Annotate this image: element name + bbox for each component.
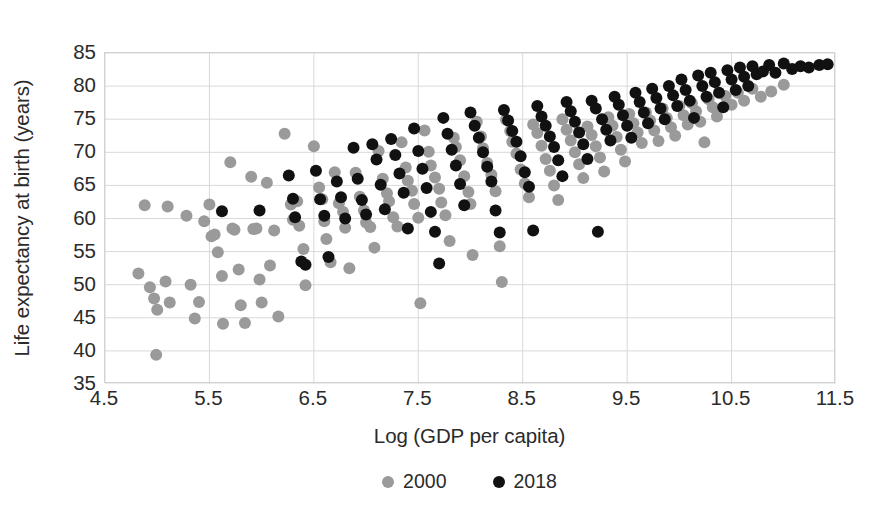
legend-marker-dot-icon xyxy=(493,476,505,488)
legend-item-2018[interactable]: 2018 xyxy=(493,470,557,493)
legend-item-label: 2000 xyxy=(403,470,446,493)
x-tick-label: 4.5 xyxy=(64,388,144,409)
x-tick-label: 7.5 xyxy=(377,388,457,409)
chart-legend: 20002018 xyxy=(104,470,835,493)
x-tick-label: 9.5 xyxy=(586,388,666,409)
x-tick-label: 10.5 xyxy=(691,388,771,409)
x-tick-label: 6.5 xyxy=(273,388,353,409)
x-tick-label: 8.5 xyxy=(482,388,562,409)
x-tick-label: 11.5 xyxy=(795,388,875,409)
legend-marker-dot-icon xyxy=(382,476,394,488)
legend-item-label: 2018 xyxy=(514,470,557,493)
x-tick-label: 5.5 xyxy=(168,388,248,409)
x-axis-title: Log (GDP per capita) xyxy=(104,424,835,448)
legend-item-2000[interactable]: 2000 xyxy=(382,470,446,493)
scatter-chart-figure: Life expectancy at birth (years) 3540455… xyxy=(0,0,890,524)
